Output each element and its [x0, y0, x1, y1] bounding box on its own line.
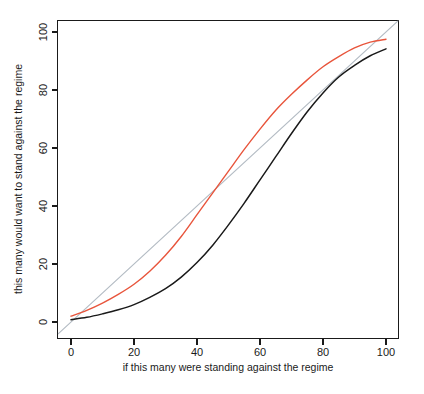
- x-tick-label: 100: [377, 346, 395, 358]
- y-tick-label: 0: [37, 319, 49, 325]
- line-chart: 020406080100 020406080100 if this many w…: [0, 0, 424, 394]
- y-tick-label: 60: [37, 142, 49, 154]
- chart-background: [0, 0, 424, 394]
- y-tick-label: 80: [37, 84, 49, 96]
- y-axis-title: this many would want to stand against th…: [12, 64, 24, 294]
- y-tick-label: 100: [37, 23, 49, 41]
- x-tick-label: 0: [68, 346, 74, 358]
- chart-figure: 020406080100 020406080100 if this many w…: [0, 0, 424, 394]
- x-axis-title: if this many were standing against the r…: [123, 361, 334, 373]
- y-tick-label: 40: [37, 200, 49, 212]
- x-tick-label: 80: [317, 346, 329, 358]
- x-tick-label: 40: [191, 346, 203, 358]
- x-tick-label: 20: [128, 346, 140, 358]
- x-tick-label: 60: [254, 346, 266, 358]
- y-tick-label: 20: [37, 258, 49, 270]
